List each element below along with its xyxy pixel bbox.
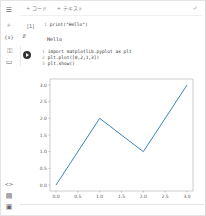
variables-icon[interactable]: {x}	[4, 33, 14, 41]
line-chart: 0.00.51.01.52.02.53.0 0.00.51.01.52.02.5…	[30, 72, 200, 202]
x-axis-ticks: 0.00.51.01.52.02.53.0	[52, 191, 190, 199]
line-number: 2	[42, 55, 45, 60]
cell-1-output: Hello	[47, 36, 62, 42]
add-text-button[interactable]: + テキスト	[57, 4, 83, 14]
code-line-3: 3plt.show()	[42, 61, 132, 67]
line-number: 1	[44, 22, 47, 27]
key-icon[interactable]: ⚿	[4, 47, 14, 55]
svg-text:1.5: 1.5	[118, 194, 125, 199]
run-cell-button[interactable]	[23, 51, 31, 59]
svg-text:3.0: 3.0	[183, 194, 190, 199]
code-text: plt.show()	[48, 61, 75, 66]
svg-text:2.0: 2.0	[140, 194, 147, 199]
output-toggle-icon[interactable]: ⇵	[22, 33, 26, 39]
folder-icon[interactable]: ▭	[4, 58, 14, 66]
search-icon[interactable]: ⌕	[4, 21, 14, 29]
cell-1-exec-count: [1]	[27, 23, 34, 29]
add-code-button[interactable]: + コード	[26, 4, 47, 14]
svg-text:2.0: 2.0	[40, 116, 47, 121]
code-line: print("Hello")	[50, 22, 88, 27]
svg-text:1.0: 1.0	[40, 149, 47, 154]
svg-text:1.5: 1.5	[40, 133, 47, 138]
svg-text:3.0: 3.0	[40, 83, 47, 88]
terminal-icon[interactable]: ▤	[4, 192, 14, 200]
side-rail: ☰ ⌕ {x} ⚿ ▭ <> ▤ ▣	[0, 0, 18, 216]
line-number: 1	[42, 49, 45, 54]
cell-2-code[interactable]: 1import matplotlib.pyplot as plt2plt.plo…	[42, 49, 132, 67]
plot-output: 0.00.51.01.52.02.53.0 0.00.51.01.52.02.5…	[30, 72, 200, 206]
menu-icon[interactable]: ☰	[4, 6, 14, 14]
y-axis-ticks: 0.00.51.01.52.02.53.0	[40, 83, 50, 188]
notebook-toolbar: + コード + テキスト	[26, 4, 83, 14]
code-text: import matplotlib.pyplot as plt	[48, 49, 132, 54]
code-text: plt.plot([0,2,1,3])	[48, 55, 99, 60]
svg-text:2.5: 2.5	[162, 194, 169, 199]
cell-bottom-border	[20, 204, 204, 205]
toolbar-divider	[20, 15, 202, 16]
cell-1-code[interactable]: 1print("Hello")	[44, 22, 88, 28]
svg-text:0.0: 0.0	[40, 183, 47, 188]
svg-text:1.0: 1.0	[96, 194, 103, 199]
svg-text:0.5: 0.5	[40, 166, 47, 171]
chevron-check-icon[interactable]: ✓	[193, 4, 198, 11]
line-number: 3	[42, 61, 45, 66]
svg-text:0.5: 0.5	[74, 194, 81, 199]
code-icon[interactable]: <>	[4, 180, 14, 188]
command-palette-icon[interactable]: ▣	[4, 203, 14, 211]
svg-text:0.0: 0.0	[52, 194, 59, 199]
svg-text:2.5: 2.5	[40, 99, 47, 104]
